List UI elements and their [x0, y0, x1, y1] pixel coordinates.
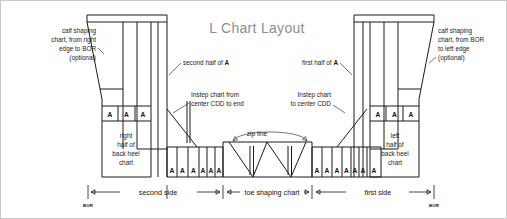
- callout-line: first half of A: [302, 59, 338, 66]
- instep-right-callout: Instep chart to center CDD: [291, 91, 346, 113]
- dimension-line: second side toe shaping chart first side…: [83, 185, 440, 208]
- dimension-label: second side: [139, 188, 177, 197]
- a-cell-label: A: [124, 111, 129, 118]
- callout-line: chart, from right: [51, 36, 96, 44]
- first-half-a-callout: first half of A: [302, 59, 352, 75]
- a-cell-label: A: [372, 167, 377, 174]
- a-cell-label: A: [344, 167, 349, 174]
- callout-line: chart, from BOR: [438, 36, 485, 43]
- callout-line: second half of A: [183, 59, 230, 66]
- a-cell-label: A: [353, 167, 358, 174]
- a-cell-label: A: [409, 111, 414, 118]
- a-cell-label: A: [201, 167, 206, 174]
- heel-text-line: back heel: [381, 150, 408, 157]
- a-cell-label: A: [141, 111, 146, 118]
- instep-left-callout: Instep chart from center CDD to end: [173, 91, 244, 143]
- a-cell-label: A: [376, 111, 381, 118]
- callout-line: Instep chart from: [191, 91, 239, 99]
- left-heel-block-label: right half of back heel chart: [112, 132, 139, 166]
- bor-marker-right: BOR: [429, 203, 440, 208]
- right-cuff-a-row: A A A: [376, 111, 414, 118]
- heel-text-line: back heel: [112, 150, 139, 157]
- callout-line: Instep chart: [298, 91, 332, 99]
- a-cell-label: A: [209, 167, 214, 174]
- dimension-label: toe shaping chart: [244, 188, 299, 197]
- a-cell-label: A: [335, 167, 340, 174]
- toe-shaping-chart-region: [223, 142, 312, 177]
- callout-line: calf shaping: [62, 27, 97, 35]
- diagram-canvas: L Chart Layout: [0, 0, 507, 219]
- left-cuff-a-row: A A A: [108, 111, 146, 118]
- heel-text-line: chart: [119, 159, 133, 166]
- a-cell-label: A: [180, 167, 185, 174]
- a-cell-label: A: [392, 111, 397, 118]
- a-cell-label: A: [108, 111, 113, 118]
- a-cell-label: A: [315, 167, 320, 174]
- a-cell-label: A: [217, 167, 222, 174]
- bor-marker-left: BOR: [83, 203, 94, 208]
- a-cell-label: A: [170, 167, 175, 174]
- callout-line: (optional): [69, 54, 96, 62]
- a-cell-label: A: [191, 167, 196, 174]
- heel-text-line: half of: [117, 141, 135, 148]
- callout-line: (optional): [438, 54, 465, 62]
- callout-line: edge to BOR: [59, 45, 96, 53]
- second-half-a-callout: second half of A: [169, 59, 230, 75]
- right-calf-callout: calf shaping chart, from BOR to left edg…: [429, 27, 485, 63]
- zip-line-callout: zip line: [233, 130, 307, 141]
- zip-line-label: zip line: [247, 130, 268, 138]
- heel-text-line: half of: [386, 141, 404, 148]
- callout-line: to center CDD: [291, 100, 332, 107]
- heel-text-line: chart: [388, 159, 402, 166]
- heel-text-line: right: [120, 132, 133, 140]
- callout-line: center CDD to end: [191, 100, 244, 107]
- callout-line: calf shaping: [438, 27, 473, 35]
- dimension-label: first side: [365, 188, 392, 197]
- page-title: L Chart Layout: [209, 20, 305, 36]
- heel-text-line: left: [391, 132, 400, 139]
- a-cell-label: A: [325, 167, 330, 174]
- left-calf-callout: calf shaping chart, from right edge to B…: [51, 27, 104, 62]
- callout-line: to left edge: [438, 45, 470, 53]
- l-chart-layout-diagram: L Chart Layout: [1, 1, 507, 219]
